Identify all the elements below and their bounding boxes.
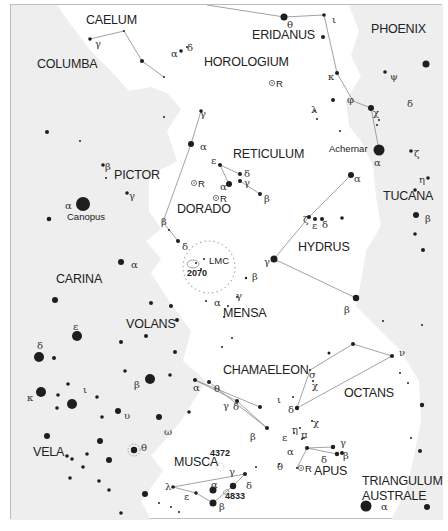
star: [70, 457, 74, 461]
star: [245, 277, 247, 279]
greek-designation: γ: [95, 38, 101, 49]
star: [97, 438, 103, 444]
constellation-label-octans: OCTANS: [344, 386, 394, 400]
star: [335, 452, 339, 456]
greek-designation: ε: [282, 432, 287, 443]
constellation-label-phoenix: PHOENIX: [371, 22, 427, 36]
constellation-label-caelum: CAELUM: [86, 13, 137, 27]
greek-designation: ε: [211, 155, 216, 166]
star-chart[interactable]: RRRR γαδθικψφλχδαζηαβγαεδγαββγαβδζεδγβγα…: [11, 5, 443, 520]
star: [421, 248, 425, 252]
dso-label-2070: 2070: [187, 268, 207, 278]
constellation-label-pictor: PICTOR: [114, 168, 160, 182]
star: [203, 258, 205, 260]
star: [413, 232, 417, 236]
greek-designation: χ: [373, 107, 379, 118]
star: [424, 504, 430, 510]
star: [255, 466, 257, 468]
star: [179, 49, 183, 53]
star: [76, 197, 90, 211]
star: [305, 446, 309, 450]
star: [149, 301, 153, 305]
greek-designation: ι: [83, 384, 87, 395]
star: [339, 130, 341, 132]
star: [409, 149, 413, 153]
greek-designation: ζ: [414, 148, 420, 159]
star: [170, 506, 172, 508]
greek-designation: δ: [288, 404, 294, 415]
star: [176, 239, 180, 243]
greek-designation: ψ: [390, 71, 398, 82]
star: [195, 262, 197, 264]
star: [79, 140, 81, 142]
greek-designation: ι: [332, 14, 336, 25]
greek-designation: α: [171, 48, 178, 59]
star: [163, 116, 165, 118]
star: [156, 414, 162, 420]
star-chart-frame: RRRR γαδθικψφλχδαζηαβγαεδγαββγαβδζεδγβγα…: [10, 4, 442, 519]
greek-designation: α: [193, 382, 200, 393]
greek-designation: α: [220, 181, 227, 192]
star: [175, 318, 179, 322]
greek-designation: α: [131, 259, 138, 270]
star: [45, 130, 49, 134]
dso-label-4833: 4833: [225, 491, 245, 501]
greek-designation: α: [374, 157, 381, 168]
constellation-label-tucana: TUCANA: [383, 189, 434, 203]
greek-designation: λ: [311, 104, 318, 115]
star: [231, 337, 233, 339]
star: [426, 176, 430, 180]
greek-designation: γ: [264, 256, 270, 267]
star: [100, 415, 104, 419]
variable-star-label: R: [276, 78, 283, 89]
star: [95, 395, 99, 399]
constellation-label-apus: APUS: [314, 464, 347, 478]
greek-designation: γ: [244, 177, 250, 188]
star: [36, 387, 46, 397]
star: [119, 511, 123, 515]
star: [210, 500, 217, 507]
star: [144, 334, 148, 338]
star: [187, 410, 191, 414]
ngc-2070-icon: [187, 260, 199, 268]
greek-designation: κ: [27, 392, 34, 403]
greek-designation: δ: [182, 241, 188, 252]
star: [265, 426, 269, 430]
greek-designation: γ: [129, 190, 135, 201]
named-star-canopus: Canopus: [67, 211, 105, 222]
greek-designation: δ: [246, 480, 252, 491]
greek-designation: γ: [223, 400, 229, 411]
dso-label-lmc: LMC: [209, 255, 229, 266]
greek-designation: γ: [340, 437, 346, 448]
greek-designation: ε: [312, 220, 317, 231]
star: [420, 403, 424, 407]
greek-designation: η: [292, 424, 298, 435]
star: [292, 396, 294, 398]
greek-designation: β: [250, 431, 256, 442]
constellation-label-chamaeleon: CHAMAELEON: [223, 363, 309, 377]
star: [66, 382, 70, 386]
greek-designation: α: [214, 297, 221, 308]
constellation-label-vela: VELA: [33, 445, 65, 459]
star: [331, 445, 335, 449]
greek-designation: ε: [73, 321, 78, 332]
greek-designation: κ: [328, 71, 335, 82]
star: [72, 331, 82, 341]
constellation-label-reticulum: RETICULUM: [233, 147, 304, 161]
star: [230, 483, 236, 489]
greek-designation: β: [161, 216, 167, 227]
star: [81, 465, 85, 469]
greek-designation: α: [65, 200, 72, 211]
constellation-label-mensa: MENSA: [223, 306, 267, 320]
greek-designation: β: [219, 501, 225, 512]
star: [390, 354, 394, 358]
star: [67, 399, 77, 409]
star: [238, 179, 242, 183]
greek-designation: χ: [312, 380, 318, 391]
star: [171, 485, 175, 489]
greek-designation: γ: [200, 108, 206, 119]
greek-designation: δ: [37, 340, 43, 351]
star: [243, 472, 247, 476]
greek-designation: υ: [124, 410, 130, 421]
star: [421, 324, 423, 326]
